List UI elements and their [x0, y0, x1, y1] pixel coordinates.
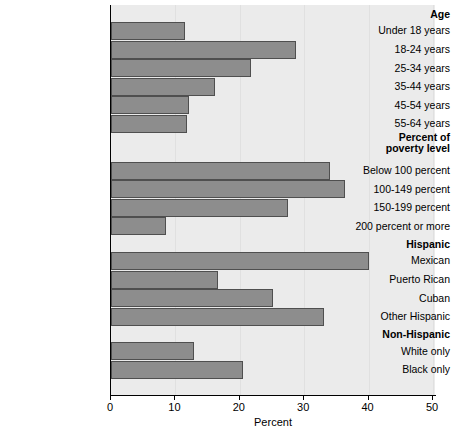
x-tick [110, 395, 111, 400]
x-tick-label: 30 [297, 401, 309, 413]
x-tick [174, 395, 175, 400]
x-tick [432, 395, 433, 400]
category-label: 45-54 years [345, 99, 453, 111]
category-label: 55-64 years [345, 117, 453, 129]
x-tick [239, 395, 240, 400]
category-label: Mexican [345, 254, 453, 266]
bar [111, 252, 369, 270]
category-label: 100-149 percent [345, 183, 453, 195]
bar [111, 22, 185, 40]
bar [111, 308, 324, 326]
group-label: Hispanic [345, 238, 453, 250]
category-label: White only [345, 345, 453, 357]
horizontal-bar-chart: AgeUnder 18 years18-24 years25-34 years3… [0, 0, 453, 436]
x-tick-label: 40 [361, 401, 373, 413]
category-label: Under 18 years [345, 24, 453, 36]
x-tick-label: 50 [426, 401, 438, 413]
x-axis-line [110, 395, 436, 396]
bar [111, 115, 187, 133]
bar [111, 342, 194, 360]
x-tick [368, 395, 369, 400]
group-label: Percent ofpoverty level [345, 132, 453, 155]
bar [111, 361, 243, 379]
category-label: Puerto Rican [345, 273, 453, 285]
x-tick-label: 20 [233, 401, 245, 413]
bar [111, 217, 166, 235]
bar [111, 78, 215, 96]
x-tick-label: 10 [168, 401, 180, 413]
category-label: Below 100 percent [345, 164, 453, 176]
x-axis-title: Percent [110, 416, 436, 428]
category-label: 25-34 years [345, 62, 453, 74]
bar [111, 96, 189, 114]
category-label: Cuban [345, 292, 453, 304]
bar [111, 199, 288, 217]
category-label: 200 percent or more [345, 220, 453, 232]
category-label: Black only [345, 363, 453, 375]
bar [111, 271, 218, 289]
group-label: Age [345, 8, 453, 20]
bar [111, 180, 345, 198]
category-label: 18-24 years [345, 43, 453, 55]
category-label: 35-44 years [345, 80, 453, 92]
bar [111, 59, 251, 77]
x-tick-label: 0 [107, 401, 113, 413]
category-label: Other Hispanic [345, 310, 453, 322]
category-label: 150-199 percent [345, 201, 453, 213]
x-tick [303, 395, 304, 400]
bar [111, 41, 296, 59]
group-label: Non-Hispanic [345, 328, 453, 340]
bar [111, 162, 330, 180]
bar [111, 289, 273, 307]
